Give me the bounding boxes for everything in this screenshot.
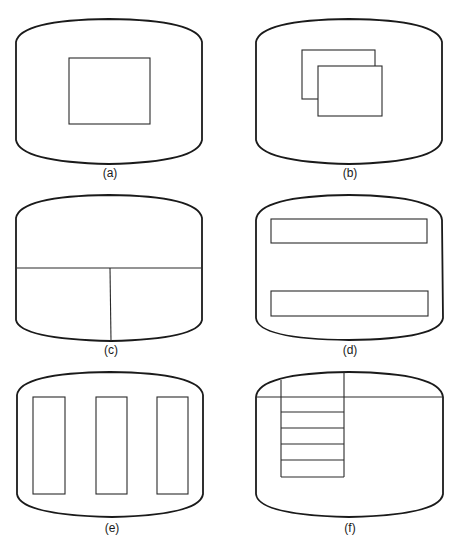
panel-label: (c): [104, 343, 118, 357]
panel-c: (c): [16, 195, 202, 357]
panel-label: (d): [343, 343, 358, 357]
panel-d: (d): [256, 195, 443, 357]
screen-layouts-diagram: (a) (b) (c) (d) (e): [0, 0, 460, 550]
panel-label: (e): [105, 521, 120, 535]
panel-f: (f): [256, 372, 443, 535]
panel-label: (b): [343, 166, 358, 180]
panel-label: (f): [344, 521, 355, 535]
panel-label: (a): [103, 166, 118, 180]
front-window: [318, 66, 382, 116]
panel-b: (b): [256, 19, 442, 180]
panel-a: (a): [16, 19, 202, 180]
screen-outline: [16, 19, 202, 164]
panel-e: (e): [17, 372, 203, 535]
screen-outline: [256, 195, 443, 340]
screen-outline: [17, 372, 203, 517]
